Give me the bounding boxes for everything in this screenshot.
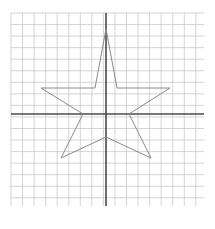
grid-plot-star-figure bbox=[0, 0, 215, 229]
figure-root bbox=[0, 0, 215, 229]
